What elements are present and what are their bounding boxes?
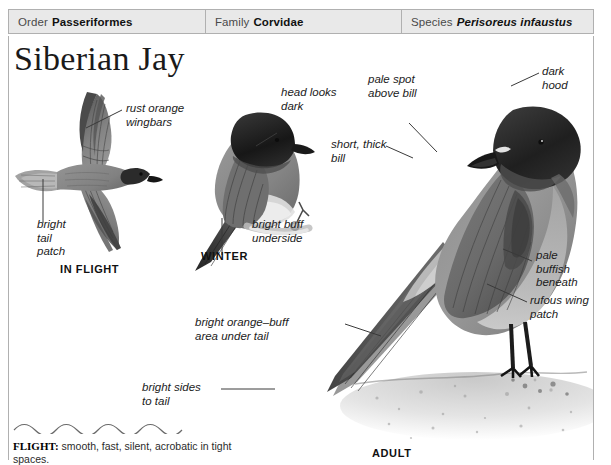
label-pale-buffish-beneath: pale buffish beneath xyxy=(536,249,593,290)
label-dark-hood: dark hood xyxy=(542,65,593,92)
label-rufous-wing-patch: rufous wing patch xyxy=(530,294,589,321)
winter-bird-illustration xyxy=(191,98,331,273)
taxonomy-species-value: Perisoreus infaustus xyxy=(457,16,573,28)
label-bright-buff-underside: bright buff underside xyxy=(252,218,303,245)
label-head-looks-dark: head looks dark xyxy=(281,86,337,113)
taxonomy-header: Order Passeriformes Family Corvidae Spec… xyxy=(8,9,594,34)
taxonomy-family-cell: Family Corvidae xyxy=(206,10,402,33)
flight-heading: FLIGHT: xyxy=(13,440,59,452)
page-title: Siberian Jay xyxy=(14,42,185,76)
label-pale-spot-above-bill: pale spot above bill xyxy=(368,73,417,100)
field-guide-page: Order Passeriformes Family Corvidae Spec… xyxy=(0,0,611,465)
taxonomy-order-key: Order xyxy=(18,16,48,28)
taxonomy-species-key: Species xyxy=(411,16,453,28)
flight-pattern-wave xyxy=(12,418,192,438)
species-plate: rust orange wingbars bright tail patch h… xyxy=(8,36,594,460)
taxonomy-order-cell: Order Passeriformes xyxy=(9,10,206,33)
label-bright-sides-to-tail: bright sides to tail xyxy=(142,381,201,408)
label-bright-tail-patch: bright tail patch xyxy=(37,218,66,259)
taxonomy-order-value: Passeriformes xyxy=(52,16,133,28)
label-short-thick-bill: short, thick bill xyxy=(331,138,387,165)
taxonomy-family-key: Family xyxy=(215,16,249,28)
caption-winter: WINTER xyxy=(201,250,248,262)
adult-bird-illustration xyxy=(325,46,594,446)
caption-in-flight: IN FLIGHT xyxy=(60,263,119,275)
label-rust-orange-wingbars: rust orange wingbars xyxy=(126,102,184,129)
label-bright-orange-buff-area-under-tail: bright orange–buff area under tail xyxy=(195,316,288,343)
taxonomy-family-value: Corvidae xyxy=(253,16,303,28)
taxonomy-species-cell: Species Perisoreus infaustus xyxy=(402,10,593,33)
flight-description: FLIGHT: smooth, fast, silent, acrobatic … xyxy=(13,440,263,465)
caption-adult: ADULT xyxy=(372,447,411,459)
